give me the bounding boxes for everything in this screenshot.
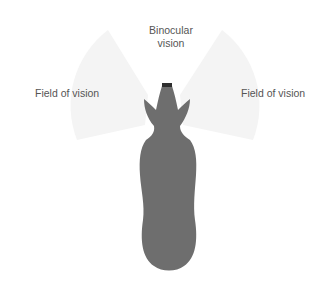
muzzle-tip [162, 83, 172, 87]
left-field-of-vision-region [71, 30, 148, 140]
binocular-vision-label: Binocular vision [140, 24, 202, 50]
binocular-label-line2: vision [140, 37, 202, 50]
right-field-of-vision-label: Field of vision [241, 87, 305, 99]
left-field-of-vision-label: Field of vision [35, 87, 99, 99]
binocular-label-line1: Binocular [140, 24, 202, 37]
